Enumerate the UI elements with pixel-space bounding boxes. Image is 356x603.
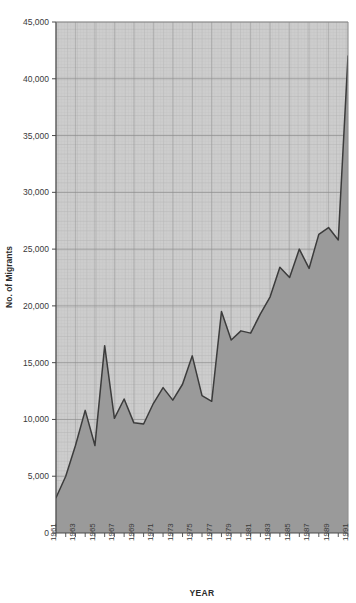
x-tick-label: 1977 (205, 523, 214, 541)
x-tick-label: 1971 (146, 523, 155, 541)
x-tick-label: 1973 (166, 523, 175, 541)
y-tick-label: 10,000 (23, 414, 49, 424)
y-tick-label: 45,000 (23, 17, 49, 27)
y-tick-label: 35,000 (23, 131, 49, 141)
y-tick-label: 20,000 (23, 301, 49, 311)
x-tick-label: 1991 (341, 523, 350, 541)
x-tick-label: 1969 (127, 523, 136, 541)
x-axis-title: YEAR (189, 588, 214, 598)
y-tick-label: 25,000 (23, 244, 49, 254)
chart-canvas: 05,00010,00015,00020,00025,00030,00035,0… (0, 0, 356, 603)
x-tick-label: 1967 (107, 523, 116, 541)
x-tick-label: 1989 (322, 523, 331, 541)
y-tick-label: 5,000 (28, 471, 50, 481)
x-tick-label: 1965 (88, 523, 97, 541)
x-tick-label: 1961 (49, 523, 58, 541)
x-tick-label: 1983 (263, 523, 272, 541)
migration-area-chart: 05,00010,00015,00020,00025,00030,00035,0… (0, 0, 356, 603)
x-tick-label: 1975 (185, 523, 194, 541)
y-tick-label: 15,000 (23, 358, 49, 368)
y-axis-title: No. of Migrants (4, 246, 14, 308)
y-tick-label: 40,000 (23, 74, 49, 84)
x-tick-label: 1981 (244, 523, 253, 541)
x-tick-label: 1963 (68, 523, 77, 541)
x-tick-label: 1987 (302, 523, 311, 541)
x-tick-label: 1985 (283, 523, 292, 541)
y-tick-label: 30,000 (23, 187, 49, 197)
y-axis-ticks: 05,00010,00015,00020,00025,00030,00035,0… (23, 17, 56, 538)
x-tick-label: 1979 (224, 523, 233, 541)
